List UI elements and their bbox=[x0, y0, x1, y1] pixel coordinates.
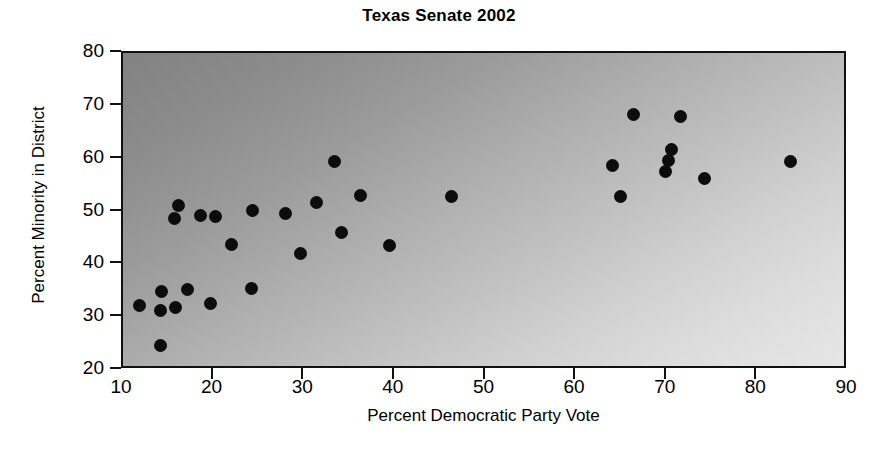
data-point bbox=[445, 190, 458, 203]
data-point bbox=[194, 209, 207, 222]
data-point bbox=[665, 143, 678, 156]
scatter-plot-figure: Texas Senate 2002 20304050607080 Percent… bbox=[0, 0, 878, 460]
y-axis-tick-label: 20 bbox=[4, 357, 104, 379]
y-axis-tick-label: 40 bbox=[4, 251, 104, 273]
y-axis-tick-mark bbox=[110, 50, 121, 52]
x-axis-title: Percent Democratic Party Vote bbox=[121, 406, 846, 426]
x-axis-tick-label: 80 bbox=[725, 376, 785, 398]
data-point bbox=[328, 155, 341, 168]
data-point bbox=[627, 108, 640, 121]
data-point bbox=[209, 210, 222, 223]
x-axis-tick-label: 30 bbox=[272, 376, 332, 398]
data-point bbox=[354, 189, 367, 202]
y-axis-tick-mark bbox=[110, 261, 121, 263]
data-point bbox=[154, 339, 167, 352]
data-point bbox=[784, 155, 797, 168]
x-axis-tick-label: 20 bbox=[182, 376, 242, 398]
y-axis-tick-mark bbox=[110, 156, 121, 158]
y-axis-tick-label: 30 bbox=[4, 304, 104, 326]
y-axis-tick-label: 50 bbox=[4, 199, 104, 221]
x-axis-tick-label: 10 bbox=[91, 376, 151, 398]
y-axis-tick-label: 70 bbox=[4, 93, 104, 115]
data-point bbox=[133, 299, 146, 312]
data-point bbox=[169, 301, 182, 314]
data-point bbox=[674, 110, 687, 123]
data-point bbox=[606, 159, 619, 172]
data-point bbox=[181, 283, 194, 296]
x-axis-tick-label: 70 bbox=[635, 376, 695, 398]
y-axis-tick-label: 80 bbox=[4, 40, 104, 62]
data-point bbox=[662, 154, 675, 167]
data-point bbox=[246, 204, 259, 217]
data-point bbox=[698, 172, 711, 185]
data-point bbox=[225, 238, 238, 251]
y-axis-tick-label: 60 bbox=[4, 146, 104, 168]
y-axis-tick-mark bbox=[110, 209, 121, 211]
data-point bbox=[614, 190, 627, 203]
y-axis-tick-label-group: 20304050607080 bbox=[0, 0, 104, 460]
data-point bbox=[310, 196, 323, 209]
chart-title: Texas Senate 2002 bbox=[0, 6, 878, 26]
x-axis-tick-label: 40 bbox=[363, 376, 423, 398]
data-point bbox=[204, 297, 217, 310]
data-point bbox=[168, 212, 181, 225]
x-axis-tick-label: 60 bbox=[544, 376, 604, 398]
data-point bbox=[383, 239, 396, 252]
data-point bbox=[294, 247, 307, 260]
data-point bbox=[245, 282, 258, 295]
y-axis-tick-mark bbox=[110, 314, 121, 316]
data-point bbox=[154, 304, 167, 317]
data-points-layer bbox=[123, 53, 844, 366]
data-point bbox=[172, 199, 185, 212]
y-axis-tick-mark bbox=[110, 367, 121, 369]
data-point bbox=[335, 226, 348, 239]
y-axis-title: Percent Minority in District bbox=[29, 60, 49, 350]
x-axis-tick-label: 50 bbox=[454, 376, 514, 398]
data-point bbox=[155, 285, 168, 298]
x-axis-tick-label: 90 bbox=[816, 376, 876, 398]
plot-area bbox=[121, 51, 846, 368]
y-axis-tick-mark bbox=[110, 103, 121, 105]
data-point bbox=[279, 207, 292, 220]
